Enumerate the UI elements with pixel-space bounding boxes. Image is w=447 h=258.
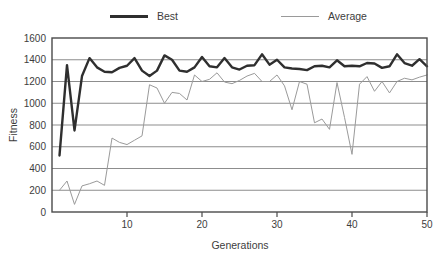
y-tick-label: 1600 [24, 33, 47, 44]
y-tick-label: 1400 [24, 54, 47, 65]
x-axis-ticks [127, 212, 427, 217]
x-tick-label: 40 [346, 219, 358, 230]
y-tick-label: 0 [40, 207, 46, 218]
y-tick-label: 200 [29, 185, 46, 196]
x-axis-tick-labels: 1020304050 [121, 219, 433, 230]
y-tick-label: 1200 [24, 76, 47, 87]
plot-area: 02004006008001000120014001600 1020304050… [0, 0, 447, 258]
x-tick-label: 50 [421, 219, 433, 230]
x-axis-title: Generations [211, 239, 268, 251]
y-tick-label: 400 [29, 163, 46, 174]
y-axis-title: Fitness [7, 108, 19, 142]
y-tick-label: 1000 [24, 98, 47, 109]
y-tick-label: 600 [29, 141, 46, 152]
series-line-average [60, 73, 428, 205]
data-series-layer [60, 54, 428, 204]
fitness-vs-generations-chart: Best Average 020040060080010001200140016… [0, 0, 447, 258]
gridlines [52, 60, 427, 191]
y-tick-label: 800 [29, 120, 46, 131]
x-tick-label: 30 [271, 219, 283, 230]
y-axis-tick-labels: 02004006008001000120014001600 [24, 33, 47, 218]
chart-canvas: 02004006008001000120014001600 1020304050… [0, 0, 447, 258]
series-line-best [60, 54, 428, 155]
x-tick-label: 10 [121, 219, 133, 230]
x-tick-label: 20 [196, 219, 208, 230]
